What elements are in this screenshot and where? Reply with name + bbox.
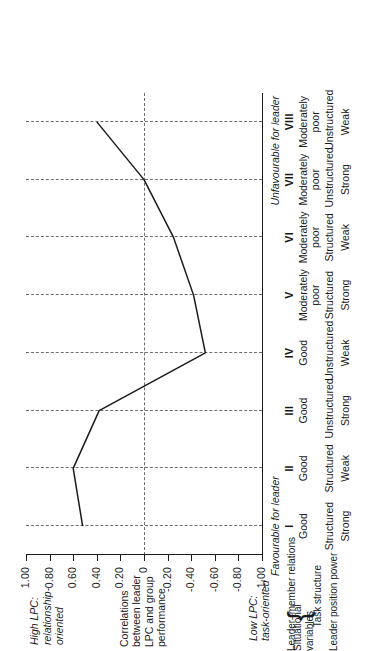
value-tick--0.80 [238, 555, 239, 561]
table-cell: Unstructured [324, 325, 336, 381]
table-cell: Good [298, 325, 310, 381]
annotation-line: between leader [130, 561, 143, 647]
table-cell: Structured [324, 498, 336, 554]
value-tick-label: -0.60 [208, 567, 220, 592]
table-cell: Weak [340, 325, 352, 381]
table-cell: Weak [340, 210, 352, 266]
annotation-line: oriented [53, 567, 66, 645]
octant-label-VIII: VIII [283, 113, 295, 130]
value-tick-label: 0.40 [90, 567, 102, 588]
table-cell: Structured [324, 441, 336, 497]
table-cell: Moderately poor [298, 210, 321, 266]
plot-area [26, 93, 262, 555]
annotation-line: variables [304, 621, 316, 651]
table-cell: Unstructured [324, 152, 336, 208]
annotation-line: Situational [292, 621, 304, 651]
octant-label-IV: IV [283, 348, 295, 359]
value-tick--0.20 [168, 555, 169, 561]
table-cell: Moderately poor [298, 267, 321, 323]
table-cell: Strong [340, 498, 352, 554]
octant-label-I: I [283, 525, 295, 528]
value-tick-label: -0.80 [231, 567, 243, 592]
octant-label-VI: VI [283, 232, 295, 243]
value-axis-line [262, 93, 263, 555]
annotation-line: Correlations [118, 561, 131, 647]
variable-rows: GoodGoodGoodGoodModerately poorModeratel… [298, 93, 356, 555]
favourable-for-leader-label: Favourable for leader [269, 476, 281, 576]
octant-label-VII: VII [283, 173, 295, 187]
table-cell: Unstructured [324, 383, 336, 439]
correlation-axis-annotation: Correlationsbetween leaderLPC and groupp… [118, 561, 168, 647]
annotation-line: performance [155, 561, 168, 647]
value-tick-0.80 [50, 555, 51, 561]
correlation-polyline [73, 122, 205, 526]
table-cell: Strong [340, 383, 352, 439]
table-cell: Weak [340, 94, 352, 150]
table-cell: Structured [324, 267, 336, 323]
table-cell: Good [298, 383, 310, 439]
value-tick-label: 0.60 [66, 567, 78, 588]
table-row: StructuredStructuredUnstructuredUnstruct… [324, 93, 340, 555]
table-cell: Good [298, 498, 310, 554]
table-cell: Moderately poor [298, 152, 321, 208]
octant-label-V: V [283, 291, 295, 298]
octant-label-row: IIIIIIIVVVIVIIVIII [283, 93, 298, 555]
table-row: StrongWeakStrongWeakStrongWeakStrongWeak [340, 93, 356, 555]
table-cell: Structured [324, 210, 336, 266]
octant-label-III: III [283, 406, 295, 416]
table-cell: Strong [340, 267, 352, 323]
variable-row-label: Leader position power [328, 565, 339, 651]
fiedler-contingency-chart: 1.000.800.600.400.200-0.20-0.40-0.60-0.8… [0, 0, 385, 651]
table-cell: Good [298, 441, 310, 497]
value-tick-0.60 [73, 555, 74, 561]
table-row: GoodGoodGoodGoodModerately poorModeratel… [298, 93, 324, 555]
table-cell: Unstructured [324, 94, 336, 150]
annotation-line: Low LPC: [247, 563, 260, 641]
value-tick--1.00 [262, 555, 263, 561]
unfavourable-for-leader-label: Unfavourable for leader [269, 96, 281, 206]
high-lpc-annotation: High LPC:relationship-oriented [28, 567, 66, 645]
value-tick-1.00 [26, 555, 27, 561]
value-tick--0.40 [191, 555, 192, 561]
annotation-line: LPC and group [143, 561, 156, 647]
correlation-line-series [26, 93, 262, 555]
value-tick--0.60 [215, 555, 216, 561]
situational-variables-table: Favourable for leaderUnfavourable for le… [268, 93, 356, 555]
table-cell: Weak [340, 441, 352, 497]
situational-variables-label: Situationalvariables [292, 621, 315, 651]
table-cell: Moderately poor [298, 94, 321, 150]
octant-label-II: II [283, 465, 295, 471]
annotation-line: relationship- [41, 567, 54, 645]
annotation-line: High LPC: [28, 567, 41, 645]
value-tick-0.40 [97, 555, 98, 561]
low-lpc-annotation: Low LPC:task-oriented [247, 563, 272, 641]
favourability-row: Favourable for leaderUnfavourable for le… [268, 93, 283, 555]
figure-rotation-wrapper: 1.000.800.600.400.200-0.20-0.40-0.60-0.8… [0, 0, 385, 651]
value-tick-label: -0.40 [184, 567, 196, 592]
table-cell: Strong [340, 152, 352, 208]
